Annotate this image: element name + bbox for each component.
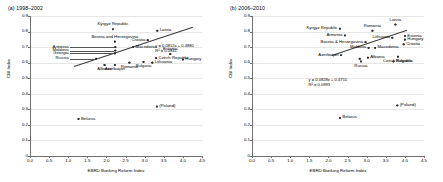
x-tick-label: 0.0 xyxy=(242,159,262,163)
x-axis-line xyxy=(252,156,424,157)
point-label: Belarus xyxy=(342,115,357,120)
x-tick-label: 1.5 xyxy=(77,159,97,163)
y-tick-label: 0 xyxy=(0,154,28,158)
regression-equation: y = 0.0828x + 0.4755R² = 0.0993 xyxy=(309,77,347,87)
point-label: Croatia xyxy=(131,38,145,43)
y-tick-label: 0.1 xyxy=(0,138,28,142)
y-tick-label: 0.1 xyxy=(80,138,250,142)
y-tick-label: 0.7 xyxy=(80,45,250,49)
x-tick-label: 2.5 xyxy=(116,159,136,163)
point-label: Belarus xyxy=(81,117,96,122)
x-tick-label: 2.0 xyxy=(96,159,116,163)
panel-a-title: (a) 1998–2002 xyxy=(8,5,43,11)
y-tick-label: 0.9 xyxy=(80,14,250,18)
y-tick-label: 0.9 xyxy=(0,14,28,18)
panel-a-plot-area: 00.10.20.30.40.50.60.70.80.90.00.51.01.5… xyxy=(30,16,202,156)
point-label: Lithuania xyxy=(372,35,389,40)
x-tick-label: 1.0 xyxy=(58,159,78,163)
point-label: Latvia xyxy=(390,18,401,23)
figure-root: (a) 1998–2002 00.10.20.30.40.50.60.70.80… xyxy=(0,0,443,182)
y-tick-label: 0.3 xyxy=(0,107,28,111)
y-axis-line xyxy=(252,16,253,156)
point-label: Macedonia xyxy=(377,45,398,50)
y-tick-label: 0 xyxy=(80,154,250,158)
point-label: Russia xyxy=(55,56,68,61)
point-label: Bulgaria xyxy=(396,59,412,64)
y-tick-label: 0.3 xyxy=(80,107,250,111)
point-label: Kyrgyz Republic xyxy=(306,26,337,31)
x-tick-label: 3.0 xyxy=(357,159,377,163)
x-axis-title: EBRD Banking Reform Index xyxy=(30,168,202,173)
point-label: (Poland) xyxy=(400,103,416,108)
r-squared-text: R² = 0.0993 xyxy=(309,82,331,87)
y-tick-label: 0.8 xyxy=(80,29,250,33)
y-tick-label: 0.2 xyxy=(0,123,28,127)
point-label: Azerbaijan xyxy=(318,53,338,58)
y-tick-label: 0.2 xyxy=(80,123,250,127)
y-tick-label: 0.6 xyxy=(80,60,250,64)
y-tick-label: 0.4 xyxy=(0,92,28,96)
x-tick-label: 0.5 xyxy=(39,159,59,163)
x-tick-label: 4.0 xyxy=(395,159,415,163)
x-axis-title: EBRD Banking Reform Index xyxy=(252,168,424,173)
point-label: Kyrgyz Republic xyxy=(97,22,128,27)
point-label: Armenia xyxy=(326,33,342,38)
y-tick-label: 0.6 xyxy=(0,60,28,64)
y-tick-label: 0.7 xyxy=(0,45,28,49)
x-tick-label: 0.0 xyxy=(20,159,40,163)
x-tick-label: 4.5 xyxy=(414,159,434,163)
y-tick-label: 0.5 xyxy=(0,76,28,80)
x-tick-label: 4.0 xyxy=(173,159,193,163)
point-label: Moldova xyxy=(350,45,366,50)
y-tick-label: 0.5 xyxy=(80,76,250,80)
y-axis-line xyxy=(30,16,31,156)
x-tick-label: 3.5 xyxy=(376,159,396,163)
y-axis-title: CBI Index xyxy=(6,59,11,78)
point-label: Russia xyxy=(354,64,367,69)
y-axis-title: CBI Index xyxy=(228,59,233,78)
y-tick-label: 0.4 xyxy=(80,92,250,96)
x-tick-label: 0.5 xyxy=(261,159,281,163)
x-tick-label: 2.5 xyxy=(338,159,358,163)
panel-b-title: (b) 2006–2010 xyxy=(230,5,265,11)
x-tick-label: 2.0 xyxy=(318,159,338,163)
point-label: Romania xyxy=(364,24,381,29)
x-tick-label: 4.5 xyxy=(192,159,212,163)
x-tick-label: 1.5 xyxy=(299,159,319,163)
x-tick-label: 3.0 xyxy=(135,159,155,163)
panel-b: (b) 2006–2010 00.10.20.30.40.50.60.70.80… xyxy=(222,0,443,182)
point-label: Azerbaijan xyxy=(105,67,125,72)
x-tick-label: 3.5 xyxy=(154,159,174,163)
y-tick-label: 0.8 xyxy=(0,29,28,33)
panel-b-plot-area: 00.10.20.30.40.50.60.70.80.90.00.51.01.5… xyxy=(252,16,424,156)
point-label: Croatia xyxy=(406,42,420,47)
x-tick-label: 1.0 xyxy=(280,159,300,163)
